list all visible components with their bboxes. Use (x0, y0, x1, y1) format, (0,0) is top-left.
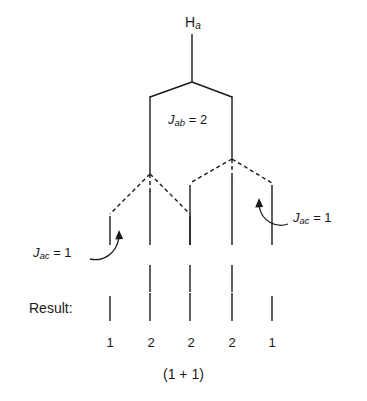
proton-ha-subscript: a (195, 20, 201, 31)
jac-right-arrow-curve (259, 206, 288, 225)
coupling-jac-left-value: = 1 (50, 245, 72, 260)
jac-left-split-leftward (110, 174, 150, 214)
coupling-jab-label: Jab = 2 (168, 113, 207, 128)
coupling-jab-value: = 2 (185, 112, 207, 127)
peak-intensity-4: 2 (222, 336, 242, 349)
jac-right-arrow-head (255, 198, 263, 208)
coupling-jac-right-value: = 1 (310, 210, 332, 225)
jab-branch-right-diagonal (192, 82, 232, 97)
proton-ha-label: Ha (185, 15, 201, 31)
jac-right-split-leftward (190, 159, 232, 183)
jac-left-arrow-head (115, 230, 123, 240)
nmr-splitting-tree-figure: Ha Jab = 2 Jac = 1 Jac = 1 Result: 1 2 2… (0, 0, 367, 401)
jab-branch-left-diagonal (150, 82, 192, 97)
coupling-jac-left-subscript: ac (40, 250, 50, 261)
peak-intensity-5: 1 (262, 336, 282, 349)
overlap-sum-label: (1 + 1) (163, 367, 204, 381)
peak-intensity-1: 1 (100, 336, 120, 349)
jac-left-split-rightward (150, 174, 190, 214)
proton-ha-main: H (185, 14, 195, 30)
jac-right-split-rightward (232, 159, 272, 183)
coupling-jac-right-subscript: ac (300, 215, 310, 226)
peak-intensity-2: 2 (141, 336, 161, 349)
peak-intensity-3: 2 (181, 336, 201, 349)
result-label: Result: (29, 301, 73, 315)
coupling-jac-right-label: Jac = 1 (293, 211, 332, 226)
jac-left-arrow-curve (90, 238, 119, 260)
coupling-jac-left-label: Jac = 1 (33, 246, 72, 261)
coupling-jab-subscript: ab (175, 117, 186, 128)
